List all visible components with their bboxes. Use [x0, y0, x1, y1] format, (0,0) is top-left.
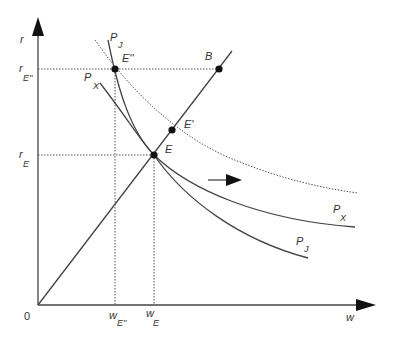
tick-r-E-sub: E [23, 159, 30, 169]
point-E-label: E [165, 143, 173, 155]
label-PJ-top: P J [110, 31, 123, 50]
point-B-label: B [205, 50, 212, 62]
tick-r-E: r E [19, 148, 30, 169]
x-axis-arrow-icon [356, 299, 376, 311]
label-PX-right: P X [333, 203, 347, 223]
y-axis-label: r [20, 33, 25, 45]
tick-w-E: w E [146, 307, 160, 328]
x-axis-label: w [346, 311, 355, 323]
y-axis-arrow-icon [32, 17, 44, 36]
label-PJ-right: P J [296, 235, 309, 254]
label-PJ-top-main: P [110, 31, 118, 43]
label-PX-top-sub: X [92, 81, 100, 91]
label-PX-right-sub: X [339, 213, 347, 223]
curve-PJ [108, 40, 308, 258]
shift-arrow-icon [226, 174, 242, 186]
tick-w-E-sub: E [153, 318, 160, 328]
point-E [150, 151, 157, 158]
label-PX-top: P X [84, 71, 100, 91]
tick-r-E2-sub: E'' [23, 73, 33, 83]
label-PX-top-main: P [84, 71, 92, 83]
shifted-curve [95, 40, 358, 193]
point-B [215, 65, 222, 72]
origin-label: 0 [24, 310, 30, 322]
point-E2-label: E'' [122, 52, 134, 64]
label-PJ-right-sub: J [303, 244, 309, 254]
label-PJ-top-sub: J [117, 40, 123, 50]
tick-w-E2-sub: E'' [117, 318, 127, 328]
label-PJ-right-main: P [296, 235, 304, 247]
point-E1-label: E' [184, 118, 194, 130]
tick-r-E2: r E'' [19, 62, 33, 83]
point-E2 [111, 65, 118, 72]
point-E1 [168, 126, 175, 133]
equilibrium-diagram: r w 0 r E'' r E w E'' w E P J P X P [0, 0, 394, 344]
tick-w-E2: w E'' [109, 309, 127, 328]
